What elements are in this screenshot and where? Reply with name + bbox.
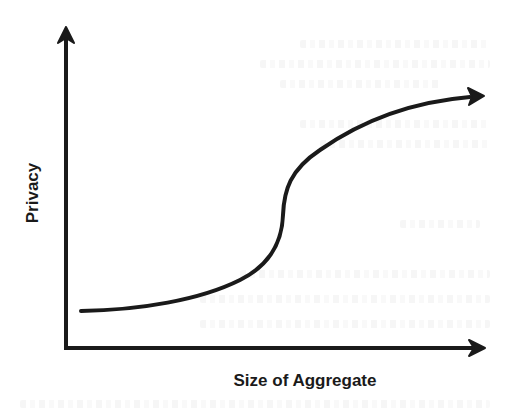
plot-area [0, 0, 513, 413]
y-axis-label: Privacy [23, 163, 43, 224]
data-series-curve [81, 88, 484, 311]
y-axis [58, 27, 74, 349]
figure: Privacy Size of Aggregate [0, 0, 513, 413]
x-axis-label: Size of Aggregate [234, 371, 377, 391]
x-axis [64, 340, 485, 356]
